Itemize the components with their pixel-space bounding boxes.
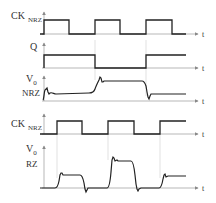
ck-label: CK (11, 118, 26, 129)
q-label: Q (30, 41, 38, 52)
q-waveform (44, 55, 186, 68)
ck-waveform (40, 121, 186, 134)
v0-nrz-waveform (43, 77, 186, 100)
t-axis-label: t (202, 184, 205, 193)
v0-rz-waveform (40, 157, 186, 192)
t-axis-label: t (202, 97, 205, 106)
ck-waveform (40, 20, 186, 34)
ck-sub-label: NRZ (28, 16, 42, 24)
t-axis-label: t (202, 30, 205, 39)
guide-lines (57, 40, 160, 178)
timing-diagram: CK NRZ t Q t V0 NRZ t CK NRZ t V0 RZ t (0, 0, 216, 203)
ck-sub-label: NRZ (28, 124, 42, 132)
v0-nrz-row: V0 NRZ t (22, 73, 205, 106)
q-row: Q t (30, 41, 205, 73)
v0-rz-row: V0 RZ t (26, 143, 205, 193)
nrz-label: NRZ (22, 88, 40, 98)
t-axis-label: t (202, 64, 205, 73)
v0-label: V0 (26, 143, 37, 157)
ck-label: CK (11, 10, 26, 21)
rz-label: RZ (26, 159, 38, 169)
t-axis-label: t (202, 130, 205, 139)
v0-label: V0 (26, 73, 37, 87)
ck-nrz-top-row: CK NRZ t (11, 10, 205, 39)
